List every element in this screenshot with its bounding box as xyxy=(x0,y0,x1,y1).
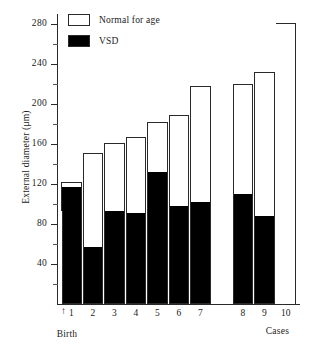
x-tick-label-8: 8 xyxy=(234,308,252,318)
birth-axis-label: Birth xyxy=(43,329,91,339)
y-tick-label: 280 xyxy=(13,18,47,28)
legend-label-vsd: VSD xyxy=(99,36,119,46)
bar-vsd-segment-case-9 xyxy=(255,216,274,303)
legend-item-vsd: VSD xyxy=(68,35,160,47)
bar-vsd-segment-case-2 xyxy=(84,247,103,303)
bar-vsd-segment-case-5 xyxy=(148,172,167,303)
bar-case-1 xyxy=(61,182,82,304)
x-tick-label-10: 10 xyxy=(277,308,295,318)
x-tick-label-6: 6 xyxy=(170,308,188,318)
bar-vsd-segment-case-6 xyxy=(170,206,189,303)
y-tick-label: 240 xyxy=(13,58,47,68)
y-tick-label: 160 xyxy=(13,138,47,148)
bar-case-4 xyxy=(126,137,147,304)
x-tick-label-9: 9 xyxy=(255,308,273,318)
x-tick-label-4: 4 xyxy=(127,308,145,318)
bar-vsd-segment-case-4 xyxy=(127,213,146,303)
chart-figure: External diameter (μm) 28024020016012080… xyxy=(0,0,311,354)
legend-swatch-vsd xyxy=(68,35,90,47)
x-tick-label-2: 2 xyxy=(84,308,102,318)
bar-case-7 xyxy=(190,86,211,304)
y-tick-label: 120 xyxy=(13,178,47,188)
bar-case-5 xyxy=(147,122,168,304)
bar-vsd-segment-case-8 xyxy=(234,194,253,303)
legend-label-normal: Normal for age xyxy=(99,15,160,25)
bar-vsd-segment-case-3 xyxy=(105,211,124,303)
bar-case-6 xyxy=(169,115,190,304)
chart-legend: Normal for age VSD xyxy=(68,14,160,56)
y-tick-label: 40 xyxy=(13,258,47,268)
y-tick-label: 80 xyxy=(13,218,47,228)
bar-case-9 xyxy=(254,72,275,304)
legend-item-normal: Normal for age xyxy=(68,14,160,26)
bar-case-2 xyxy=(83,153,104,304)
bar-vsd-segment-case-1 xyxy=(62,187,81,303)
bar-vsd-segment-case-7 xyxy=(191,202,210,303)
y-tick-label: 200 xyxy=(13,98,47,108)
bar-case-10 xyxy=(276,23,297,304)
birth-column xyxy=(58,211,63,304)
x-tick-label-1: 1 xyxy=(62,308,80,318)
x-tick-label-5: 5 xyxy=(148,308,166,318)
x-tick-label-7: 7 xyxy=(191,308,209,318)
legend-swatch-normal xyxy=(68,14,90,26)
bar-case-8 xyxy=(233,84,254,304)
bar-case-3 xyxy=(104,143,125,304)
bar-case-10-open-edge xyxy=(295,23,296,264)
x-tick-label-3: 3 xyxy=(105,308,123,318)
x-axis-title: Cases xyxy=(248,326,308,336)
